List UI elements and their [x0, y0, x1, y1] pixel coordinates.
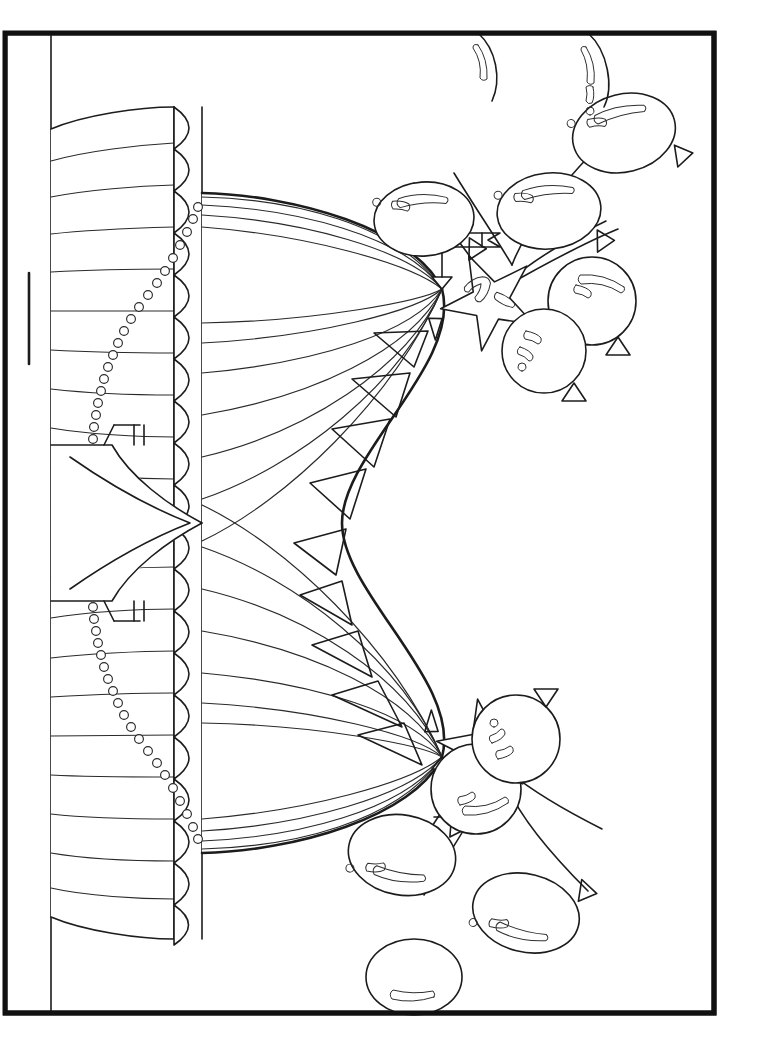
balloon [563, 80, 695, 190]
balloon-knot-icon [672, 141, 695, 167]
balloon-fragments [473, 33, 609, 115]
balloon [492, 167, 615, 263]
balloon [472, 689, 560, 783]
balloon [502, 309, 586, 401]
balloon-partial [366, 939, 462, 1015]
ground-line-group [5, 33, 51, 1013]
tent-roof [202, 193, 452, 853]
balloon [464, 855, 599, 966]
coloring-page: Circus Tent Coloring Page big-top circus… [0, 0, 761, 1056]
artboard [0, 0, 761, 1056]
line-art-canvas [0, 0, 761, 1056]
rotated-artwork [5, 33, 695, 1015]
